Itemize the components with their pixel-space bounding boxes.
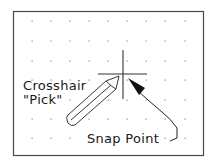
grid-dot	[165, 80, 166, 81]
grid-dot	[185, 100, 186, 101]
grid-dot	[185, 80, 186, 81]
grid-dot	[127, 21, 128, 22]
grid-dot	[89, 21, 90, 22]
grid-dot	[89, 80, 90, 81]
grid-dot	[108, 100, 109, 101]
grid-dot	[165, 61, 166, 62]
grid-dot	[146, 61, 147, 62]
grid-dot	[108, 21, 109, 22]
grid-dot	[32, 138, 33, 139]
grid-dot	[127, 41, 128, 42]
grid-dot	[165, 100, 166, 101]
grid-dot	[185, 41, 186, 42]
grid-dot	[185, 21, 186, 22]
grid-dot	[185, 138, 186, 139]
grid-dot	[51, 61, 52, 62]
grid-dot	[165, 41, 166, 42]
grid-dot	[32, 21, 33, 22]
grid-dot	[70, 138, 71, 139]
grid-dot	[70, 21, 71, 22]
grid-dot	[127, 100, 128, 101]
grid-dot	[127, 119, 128, 120]
grid-dot	[51, 41, 52, 42]
grid-dot	[70, 100, 71, 101]
grid-dot	[32, 61, 33, 62]
grid-dot	[89, 119, 90, 120]
grid-dot	[70, 61, 71, 62]
pick-label: "Pick"	[23, 92, 63, 107]
grid-dot	[185, 119, 186, 120]
grid-dot	[108, 61, 109, 62]
grid-dot	[146, 21, 147, 22]
grid-dot	[127, 80, 128, 81]
grid-dot	[127, 61, 128, 62]
grid-dot	[51, 119, 52, 120]
crosshair-label: Crosshair	[23, 78, 87, 93]
grid-dot	[108, 41, 109, 42]
grid-dot	[146, 119, 147, 120]
grid-dot	[165, 21, 166, 22]
snap-point-diagram: Crosshair "Pick" Snap Point	[0, 0, 216, 165]
grid-dot	[165, 119, 166, 120]
grid-dot	[51, 21, 52, 22]
grid-dot	[89, 61, 90, 62]
grid-dot	[165, 138, 166, 139]
grid-dot	[32, 41, 33, 42]
grid-dot	[146, 80, 147, 81]
grid-dot	[146, 100, 147, 101]
grid-dot	[185, 61, 186, 62]
grid-dot	[146, 41, 147, 42]
grid-dot	[51, 138, 52, 139]
grid-dot	[32, 119, 33, 120]
grid-dot	[89, 41, 90, 42]
snap-point-label: Snap Point	[87, 131, 159, 146]
grid-dot	[108, 119, 109, 120]
grid-dot	[70, 41, 71, 42]
